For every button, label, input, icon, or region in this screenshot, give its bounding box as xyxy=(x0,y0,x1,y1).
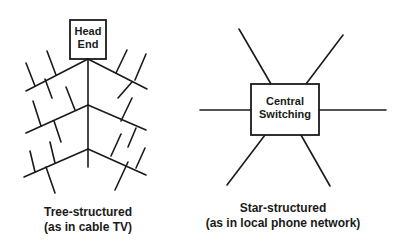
central-switching-label-line1: Central xyxy=(251,95,319,108)
central-switching-label: Central Switching xyxy=(251,95,319,121)
tree-branch-l3-right xyxy=(88,149,146,175)
tree-caption-line1: Tree-structured xyxy=(18,205,158,220)
star-caption-line1: Star-structured xyxy=(198,201,368,216)
star-spoke-down-right xyxy=(301,135,330,186)
head-end-label: Head End xyxy=(70,25,106,51)
head-end-label-line2: End xyxy=(70,38,106,51)
star-spoke-down-left xyxy=(227,135,265,185)
tree-caption: Tree-structured (as in cable TV) xyxy=(18,205,158,235)
tree-caption-line2: (as in cable TV) xyxy=(18,220,158,235)
star-spoke-up-right xyxy=(306,35,343,84)
star-caption: Star-structured (as in local phone netwo… xyxy=(198,201,368,231)
star-spoke-up-left xyxy=(239,29,271,84)
central-switching-label-line2: Switching xyxy=(251,108,319,121)
head-end-label-line1: Head xyxy=(70,25,106,38)
star-caption-line2: (as in local phone network) xyxy=(198,216,368,231)
tree-branch-l2-right xyxy=(88,105,146,130)
